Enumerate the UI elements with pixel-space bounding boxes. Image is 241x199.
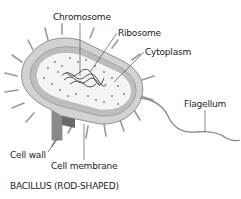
label-ribosome: Ribosome bbox=[118, 28, 161, 38]
label-cytoplasm: Cytoplasm bbox=[145, 47, 191, 57]
cell-body bbox=[22, 38, 143, 140]
diagram-caption: BACILLUS (ROD-SHAPED) bbox=[10, 181, 119, 191]
label-flagellum: Flagellum bbox=[184, 99, 226, 109]
label-cell-wall: Cell wall bbox=[10, 150, 46, 160]
label-cell-membrane: Cell membrane bbox=[51, 161, 117, 171]
label-chromosome: Chromosome bbox=[53, 12, 111, 22]
